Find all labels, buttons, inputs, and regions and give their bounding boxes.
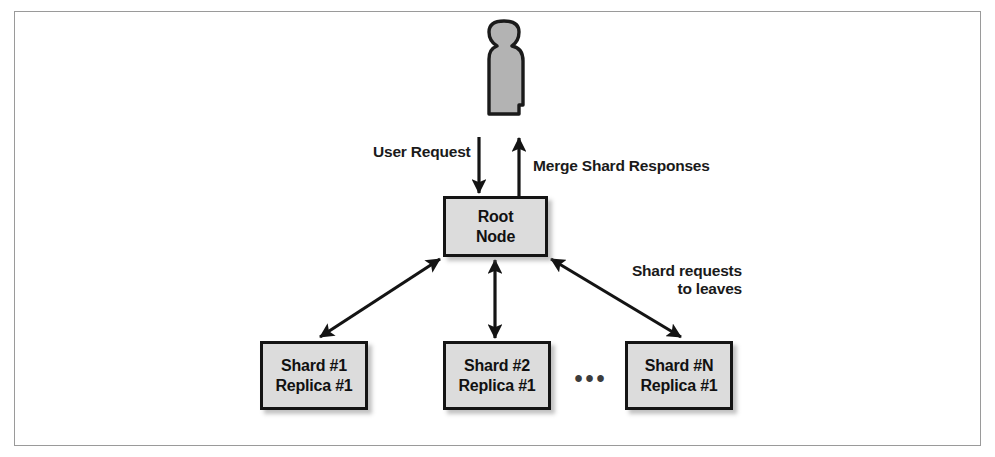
label-shard-requests-to-leaves: Shard requests to leaves — [597, 262, 742, 299]
shard-node-box-1[interactable]: Shard #1 Replica #1 — [260, 341, 368, 410]
root-node-label-line2: Node — [476, 227, 515, 246]
shard-label-line1: Shard #1 — [281, 356, 347, 375]
shard-label-line1: Shard #2 — [464, 356, 530, 375]
label-user-request: User Request — [373, 143, 471, 161]
label-merge-shard-responses: Merge Shard Responses — [533, 157, 710, 175]
root-node-box[interactable]: Root Node — [443, 196, 548, 257]
root-node-label-line1: Root — [478, 207, 514, 226]
shard-node-box-n[interactable]: Shard #N Replica #1 — [625, 341, 733, 410]
user-person-icon — [489, 21, 523, 114]
figure-root: Root Node Shard #1 Replica #1 Shard #2 R… — [0, 0, 995, 457]
edge-root-to-shard-1 — [320, 259, 440, 337]
shard-ellipsis: ••• — [571, 366, 611, 393]
label-shard-requests-line2: to leaves — [677, 280, 742, 297]
shard-label-line2: Replica #1 — [275, 376, 352, 395]
shard-label-line2: Replica #1 — [640, 376, 717, 395]
shard-label-line1: Shard #N — [645, 356, 714, 375]
shard-node-box-2[interactable]: Shard #2 Replica #1 — [443, 341, 551, 410]
shard-label-line2: Replica #1 — [458, 376, 535, 395]
label-shard-requests-line1: Shard requests — [632, 262, 742, 279]
